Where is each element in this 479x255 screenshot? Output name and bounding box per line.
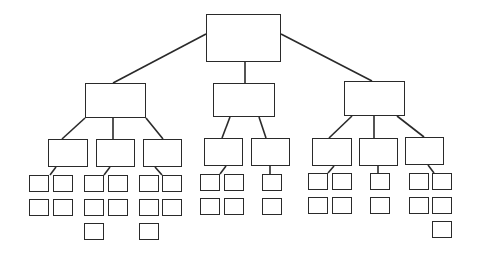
node-R3 bbox=[405, 137, 444, 165]
node-M2a bbox=[262, 174, 282, 191]
node-R3a bbox=[409, 173, 429, 190]
connector-L1-L1a bbox=[50, 167, 56, 175]
node-R3c bbox=[409, 197, 429, 214]
node-M2b bbox=[262, 198, 282, 215]
node-M1c bbox=[200, 198, 220, 215]
node-L3a bbox=[139, 175, 159, 192]
node-M1 bbox=[204, 138, 243, 166]
node-L2 bbox=[96, 139, 135, 167]
node-L1c bbox=[29, 199, 49, 216]
node-root bbox=[206, 14, 281, 62]
node-L3e bbox=[139, 223, 159, 240]
node-R3e bbox=[432, 221, 452, 238]
connector-R1-R1a bbox=[328, 166, 334, 173]
node-L2b bbox=[108, 175, 128, 192]
connector-R-R3 bbox=[397, 116, 424, 137]
node-L2d bbox=[108, 199, 128, 216]
node-R1 bbox=[312, 138, 352, 166]
node-M bbox=[213, 83, 275, 117]
node-M1b bbox=[224, 174, 244, 191]
node-R3b bbox=[432, 173, 452, 190]
connector-M-M1 bbox=[222, 117, 230, 138]
node-R bbox=[344, 81, 405, 116]
node-R1b bbox=[332, 173, 352, 190]
connector-R3-R3b bbox=[428, 165, 434, 173]
node-R2b bbox=[370, 197, 390, 214]
node-R1a bbox=[308, 173, 328, 190]
connector-root-L bbox=[113, 34, 206, 83]
node-M2 bbox=[251, 138, 290, 166]
node-R1d bbox=[332, 197, 352, 214]
node-L3b bbox=[162, 175, 182, 192]
connector-L-L3 bbox=[146, 118, 163, 139]
node-L3d bbox=[162, 199, 182, 216]
node-L3 bbox=[143, 139, 182, 167]
node-L1 bbox=[48, 139, 88, 167]
org-chart-diagram bbox=[0, 0, 479, 255]
node-L2e bbox=[84, 223, 104, 240]
node-L3c bbox=[139, 199, 159, 216]
connector-L2-L2a bbox=[104, 167, 110, 175]
node-L2a bbox=[84, 175, 104, 192]
connector-M-M2 bbox=[259, 117, 266, 138]
node-L1d bbox=[53, 199, 73, 216]
node-R2 bbox=[359, 138, 398, 166]
node-R3d bbox=[432, 197, 452, 214]
node-R1c bbox=[308, 197, 328, 214]
node-M1a bbox=[200, 174, 220, 191]
node-R2a bbox=[370, 173, 390, 190]
node-L2c bbox=[84, 199, 104, 216]
connector-L3-L3b bbox=[155, 167, 162, 175]
connector-root-R bbox=[281, 34, 372, 81]
connector-R-R1 bbox=[329, 116, 352, 138]
connector-L-L1 bbox=[62, 118, 85, 139]
node-M1d bbox=[224, 198, 244, 215]
node-L1b bbox=[53, 175, 73, 192]
node-L1a bbox=[29, 175, 49, 192]
connector-M1-M1a bbox=[220, 166, 226, 174]
node-L bbox=[85, 83, 146, 118]
